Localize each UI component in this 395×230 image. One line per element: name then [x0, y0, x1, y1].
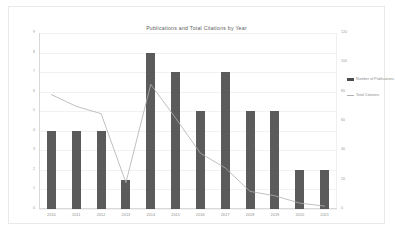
y-axis-left-tick-label: 7 — [17, 70, 35, 74]
y-axis-left-tick-label: 4 — [17, 129, 35, 133]
legend-label-citations: Total Citations — [356, 93, 379, 98]
legend-item-citations: Total Citations — [347, 93, 395, 98]
y-axis-right-tick-label: 20 — [341, 178, 359, 182]
y-axis-left-tick-label: 9 — [17, 31, 35, 35]
y-axis-right-tick-label: 40 — [341, 148, 359, 152]
x-axis-tick-label: 2018 — [238, 213, 263, 217]
plot-area: 0123456789 020406080100120 2010201120122… — [39, 33, 337, 209]
legend-item-publications: Number of Publications — [347, 77, 395, 82]
y-axis-right-tick-label: 120 — [341, 31, 359, 35]
y-axis-right-tick-label: 0 — [341, 207, 359, 211]
line-swatch-icon — [347, 94, 354, 97]
y-axis-right-tick-label: 60 — [341, 119, 359, 123]
x-axis-tick-label: 2014 — [138, 213, 163, 217]
x-axis-tick-label: 2021 — [312, 213, 337, 217]
x-axis-tick-label: 2015 — [163, 213, 188, 217]
y-axis-left-tick-label: 6 — [17, 90, 35, 94]
chart-title: Publications and Total Citations by Year — [9, 25, 384, 31]
y-axis-left-tick-label: 1 — [17, 187, 35, 191]
x-axis-tick-label: 2013 — [114, 213, 139, 217]
x-axis-tick-label: 2019 — [263, 213, 288, 217]
gridline — [39, 209, 337, 210]
x-axis-tick-label: 2012 — [89, 213, 114, 217]
x-axis-tick-label: 2017 — [213, 213, 238, 217]
x-axis-tick-label: 2010 — [39, 213, 64, 217]
chart-legend: Number of Publications Total Citations — [347, 77, 395, 109]
x-axis-tick-label: 2011 — [64, 213, 89, 217]
y-axis-left-tick-label: 3 — [17, 148, 35, 152]
y-axis-right-tick-label: 100 — [341, 60, 359, 64]
y-axis-left-tick-label: 8 — [17, 51, 35, 55]
x-axis-tick-label: 2020 — [287, 213, 312, 217]
citation-line-series — [39, 33, 337, 209]
y-axis-left-tick-label: 5 — [17, 109, 35, 113]
x-axis-tick-label: 2016 — [188, 213, 213, 217]
y-axis-left-tick-label: 2 — [17, 168, 35, 172]
bar-swatch-icon — [347, 78, 354, 81]
chart-frame: Publications and Total Citations by Year… — [8, 6, 385, 224]
legend-label-publications: Number of Publications — [356, 77, 394, 82]
y-axis-left-tick-label: 0 — [17, 207, 35, 211]
